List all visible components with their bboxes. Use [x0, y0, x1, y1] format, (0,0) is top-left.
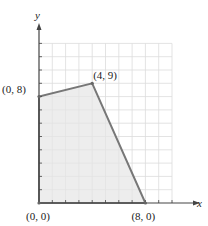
x-axis-label: x: [196, 197, 202, 209]
point-label: (0, 8): [2, 83, 26, 96]
point-label: (0, 0): [26, 210, 50, 223]
chart-canvas: (0, 0)(0, 8)(4, 9)(8, 0) x y: [0, 0, 208, 226]
point-label: (8, 0): [131, 210, 155, 223]
y-axis-label: y: [34, 9, 40, 21]
feasible-region: [39, 83, 145, 203]
point-label: (4, 9): [93, 69, 117, 82]
